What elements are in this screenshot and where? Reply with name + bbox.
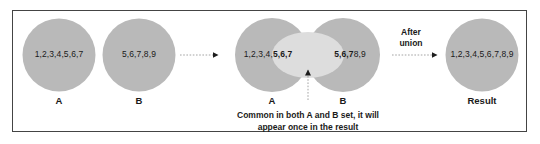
- caption-line-2: appear once in the result: [237, 121, 379, 133]
- result-label: Result: [467, 96, 496, 107]
- venn-set-b-contents: 5,6,78,9: [334, 50, 366, 60]
- venn-union-diagram: 1,2,3,4,5,6,7 A 5,6,7,8,9 B 1,2,3,4,5,6,…: [0, 0, 540, 144]
- venn-set-b-label: B: [340, 96, 347, 107]
- set-b-contents: 5,6,7,8,9: [122, 50, 156, 60]
- operation-line-1: After: [399, 27, 422, 38]
- venn-b-unique-values: 8,9: [354, 49, 366, 59]
- venn-a-shared-values: 5,6,7: [273, 49, 292, 59]
- set-a-contents: 1,2,3,4,5,6,7: [35, 50, 84, 60]
- venn-set-a-contents: 1,2,3,4,5,6,7: [244, 50, 293, 60]
- operation-label: After union: [399, 27, 422, 49]
- set-b-label: B: [136, 96, 143, 107]
- venn-a-unique-values: 1,2,3,4,: [244, 49, 273, 59]
- caption-line-1: Common in both A and B set, it will: [237, 109, 379, 121]
- operation-line-2: union: [399, 38, 422, 49]
- venn-set-a-label: A: [269, 96, 276, 107]
- result-contents: 1,2,3,4,5,6,7,8,9: [450, 50, 513, 60]
- set-a-label: A: [56, 96, 63, 107]
- intersection-caption: Common in both A and B set, it will appe…: [237, 109, 379, 134]
- venn-b-shared-values: 5,6,7: [334, 49, 353, 59]
